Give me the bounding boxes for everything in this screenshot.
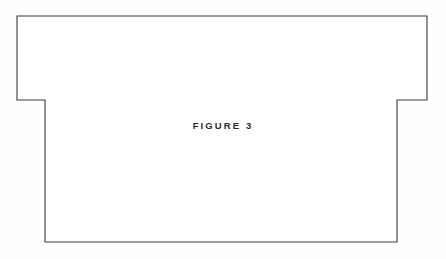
figure-sheet: FIGURE 3 (0, 0, 446, 259)
figure-caption: FIGURE 3 (0, 120, 446, 132)
